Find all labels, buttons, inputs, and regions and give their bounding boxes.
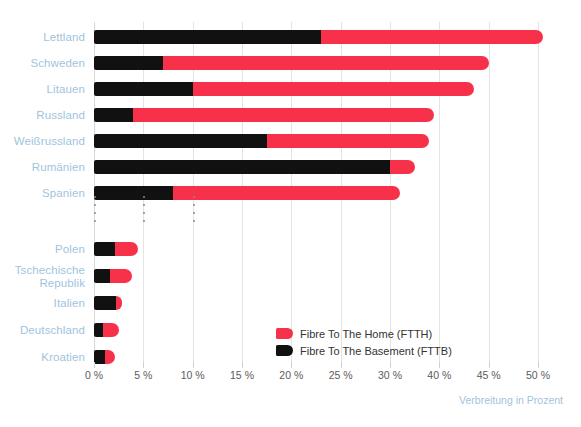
axis-break-dot (94, 196, 96, 198)
x-tick (390, 362, 391, 368)
stacked-bar[interactable] (94, 82, 474, 96)
category-label: Russland (36, 109, 85, 122)
x-tick-label: 0 % (85, 369, 103, 381)
x-tick (489, 362, 490, 368)
x-axis-title: Verbreitung in Prozent (459, 394, 563, 406)
axis-break-marker (94, 196, 164, 222)
x-axis: 0 %5 %10 %15 %20 %25 %30 %40 %45 %50 % (94, 362, 538, 386)
stacked-bar-chart: LettlandSchwedenLitauenRusslandWeißrussl… (0, 0, 581, 427)
bar-segment-ftbb[interactable] (94, 242, 115, 256)
bar-segment-ftbb[interactable] (94, 296, 116, 310)
axis-break-dots (143, 196, 145, 222)
category-label: Litauen (47, 83, 85, 96)
bar-row: Tschechische Republik (94, 267, 538, 285)
bar-row: Weißrussland (94, 132, 538, 150)
axis-break-dot (193, 204, 195, 206)
bar-row: Rumänien (94, 158, 538, 176)
bar-segment-ftth[interactable] (193, 82, 474, 96)
bar-segment-ftth[interactable] (163, 56, 489, 70)
x-tick (143, 362, 144, 368)
category-label: Weißrussland (14, 135, 85, 148)
bar-segment-ftbb[interactable] (94, 30, 321, 44)
bar-rows: LettlandSchwedenLitauenRusslandWeißrussl… (94, 22, 538, 362)
axis-break-dot (94, 204, 96, 206)
x-tick (439, 362, 440, 368)
stacked-bar[interactable] (94, 323, 119, 337)
x-tick-label: 5 % (134, 369, 152, 381)
bar-row: Polen (94, 240, 538, 258)
bar-segment-ftth[interactable] (321, 30, 543, 44)
x-tick-label: 45 % (477, 369, 501, 381)
axis-break-dot (94, 212, 96, 214)
bar-row: Russland (94, 106, 538, 124)
bar-segment-ftth[interactable] (103, 323, 119, 337)
bar-segment-ftth[interactable] (133, 108, 434, 122)
axis-break-dot (193, 220, 195, 222)
bar-row: Schweden (94, 54, 538, 72)
category-label: Rumänien (32, 161, 85, 174)
bar-segment-ftbb[interactable] (94, 108, 133, 122)
legend-item[interactable]: Fibre To The Basement (FTTB) (276, 343, 452, 358)
axis-break-dot (143, 204, 145, 206)
stacked-bar[interactable] (94, 134, 429, 148)
x-tick-label: 40 % (427, 369, 451, 381)
category-label: Kroatien (41, 351, 85, 364)
x-tick (341, 362, 342, 368)
bar-segment-ftth[interactable] (115, 242, 139, 256)
bar-segment-ftth[interactable] (390, 160, 415, 174)
axis-break-dot (193, 196, 195, 198)
bar-segment-ftth[interactable] (267, 134, 430, 148)
stacked-bar[interactable] (94, 296, 122, 310)
bar-segment-ftbb[interactable] (94, 160, 390, 174)
axis-break-dot (143, 220, 145, 222)
x-tick-label: 50 % (526, 369, 550, 381)
legend-label: Fibre To The Basement (FTTB) (300, 345, 452, 357)
stacked-bar[interactable] (94, 160, 415, 174)
category-label: Italien (54, 297, 85, 310)
bar-segment-ftth[interactable] (173, 186, 400, 200)
category-label: Polen (55, 243, 85, 256)
stacked-bar[interactable] (94, 242, 138, 256)
plot-area: LettlandSchwedenLitauenRusslandWeißrussl… (94, 22, 538, 362)
stacked-bar[interactable] (94, 56, 489, 70)
category-label: Spanien (42, 187, 85, 200)
stacked-bar[interactable] (94, 108, 434, 122)
axis-break-dot (143, 196, 145, 198)
axis-break-dots (94, 196, 96, 222)
x-tick-label: 15 % (230, 369, 254, 381)
x-tick (538, 362, 539, 368)
bar-row: Italien (94, 294, 538, 312)
x-tick (94, 362, 95, 368)
category-label: Deutschland (20, 324, 85, 337)
x-tick-label: 10 % (181, 369, 205, 381)
legend-item[interactable]: Fibre To The Home (FTTH) (276, 326, 452, 341)
axis-break-dots (193, 196, 195, 222)
bar-row: Lettland (94, 28, 538, 46)
stacked-bar[interactable] (94, 269, 132, 283)
stacked-bar[interactable] (94, 30, 543, 44)
bar-segment-ftbb[interactable] (94, 134, 267, 148)
bar-segment-ftbb[interactable] (94, 269, 110, 283)
x-tick-label: 25 % (329, 369, 353, 381)
gridline (538, 22, 539, 362)
axis-break-dot (193, 212, 195, 214)
x-tick (193, 362, 194, 368)
legend-label: Fibre To The Home (FTTH) (300, 328, 432, 340)
bar-segment-ftbb[interactable] (94, 323, 103, 337)
category-label: Lettland (43, 31, 85, 44)
bar-segment-ftth[interactable] (110, 269, 133, 283)
category-label: Schweden (30, 57, 85, 70)
category-label: Tschechische Republik (15, 264, 85, 289)
x-tick (242, 362, 243, 368)
axis-break-dot (94, 220, 96, 222)
chart-legend: Fibre To The Home (FTTH)Fibre To The Bas… (276, 326, 452, 358)
x-tick-label: 20 % (279, 369, 303, 381)
bar-row: Litauen (94, 80, 538, 98)
bar-segment-ftth[interactable] (116, 296, 122, 310)
legend-swatch-ftbb (276, 345, 293, 356)
bar-segment-ftbb[interactable] (94, 56, 163, 70)
axis-break-dot (143, 212, 145, 214)
bar-segment-ftbb[interactable] (94, 82, 193, 96)
x-tick (291, 362, 292, 368)
legend-swatch-ftth (276, 328, 293, 339)
